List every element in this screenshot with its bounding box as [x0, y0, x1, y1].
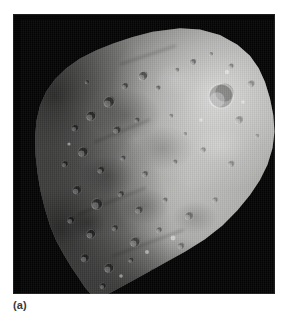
moon-image — [21, 20, 275, 294]
moon-albedo-mottling — [25, 24, 275, 294]
figure-caption-label: (a) — [13, 298, 27, 312]
figure-panel: (a) — [0, 0, 289, 317]
photograph-plate — [13, 14, 275, 294]
crater — [122, 287, 127, 292]
